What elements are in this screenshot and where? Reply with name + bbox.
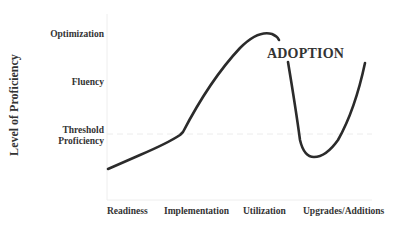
curve-segment-2	[288, 62, 365, 157]
y-tick-threshold: Threshold Proficiency	[34, 125, 104, 147]
y-axis-label: Level of Proficiency	[4, 50, 24, 160]
curve-segment-1	[108, 33, 279, 169]
x-tick-readiness: Readiness	[107, 206, 148, 216]
y-tick-fluency: Fluency	[72, 77, 104, 88]
y-tick-optimization: Optimization	[50, 29, 104, 40]
adoption-curve-chart: Level of Proficiency Optimization Fluenc…	[0, 0, 394, 232]
x-tick-upgrades-additions: Upgrades/Additions	[303, 206, 384, 216]
x-tick-implementation: Implementation	[164, 206, 229, 216]
x-tick-utilization: Utilization	[243, 206, 286, 216]
adoption-annotation: ADOPTION	[267, 46, 344, 62]
